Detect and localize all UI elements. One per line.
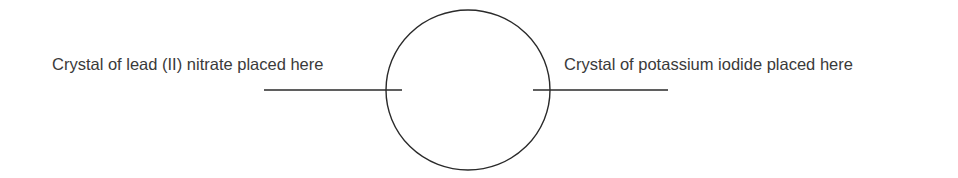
- petri-dish-circle: [386, 10, 550, 170]
- label-potassium-iodide: Crystal of potassium iodide placed here: [564, 56, 853, 73]
- label-lead-nitrate: Crystal of lead (II) nitrate placed here: [52, 56, 323, 73]
- diagram-svg: [0, 0, 958, 178]
